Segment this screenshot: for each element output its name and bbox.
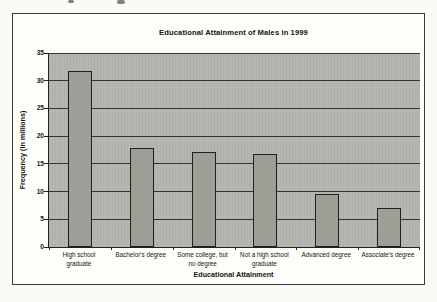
category-label: Associate's degree bbox=[357, 251, 419, 260]
bar bbox=[130, 148, 154, 247]
gridline bbox=[49, 80, 420, 81]
category-label: Advanced degree bbox=[295, 251, 357, 260]
y-axis-tick bbox=[44, 191, 48, 192]
category-label: High school graduate bbox=[48, 251, 110, 268]
x-axis-tick bbox=[111, 247, 112, 250]
x-axis-category-labels: High school graduateBachelor's degreeSom… bbox=[48, 251, 419, 269]
y-tick-label: 35 bbox=[13, 49, 44, 57]
y-tick-label: 15 bbox=[13, 160, 44, 168]
bar bbox=[377, 208, 401, 247]
gridline bbox=[49, 219, 420, 220]
category-label: Not a high school graduate bbox=[234, 251, 296, 268]
category-label: Some college, but no degree bbox=[172, 251, 234, 268]
x-axis-title: Educational Attainment bbox=[48, 270, 419, 279]
gridline bbox=[49, 163, 420, 164]
y-axis-tick bbox=[44, 108, 48, 109]
y-tick-label: 20 bbox=[13, 132, 44, 140]
chart-frame: Educational Attainment of Males in 1999 … bbox=[12, 13, 425, 285]
x-axis-tick bbox=[49, 247, 50, 250]
gridline bbox=[49, 108, 420, 109]
gridline bbox=[49, 53, 420, 54]
y-tick-label: 5 bbox=[13, 215, 44, 223]
bar bbox=[315, 194, 339, 247]
x-axis-tick bbox=[173, 247, 174, 250]
plot-area bbox=[48, 53, 420, 248]
x-axis-tick bbox=[235, 247, 236, 250]
gridline bbox=[49, 191, 420, 192]
y-tick-label: 10 bbox=[13, 188, 44, 196]
bar bbox=[253, 154, 277, 247]
scan-artifact bbox=[68, 0, 74, 3]
x-axis-tick bbox=[296, 247, 297, 250]
x-axis-tick bbox=[419, 247, 420, 250]
y-tick-label: 30 bbox=[13, 77, 44, 85]
x-axis-tick bbox=[358, 247, 359, 250]
y-axis-tick bbox=[44, 53, 48, 54]
y-axis-tick bbox=[44, 247, 48, 248]
y-axis-tick bbox=[44, 80, 48, 81]
y-axis-tick-labels: 05101520253035 bbox=[13, 53, 44, 247]
chart-title: Educational Attainment of Males in 1999 bbox=[48, 28, 419, 37]
y-axis-tick bbox=[44, 163, 48, 164]
gridline bbox=[49, 136, 420, 137]
y-tick-label: 25 bbox=[13, 104, 44, 112]
bar bbox=[68, 71, 92, 247]
y-axis-tick bbox=[44, 136, 48, 137]
scan-artifact bbox=[117, 0, 125, 4]
category-label: Bachelor's degree bbox=[110, 251, 172, 260]
y-tick-label: 0 bbox=[13, 243, 44, 251]
y-axis-tick bbox=[44, 219, 48, 220]
bar bbox=[192, 152, 216, 247]
